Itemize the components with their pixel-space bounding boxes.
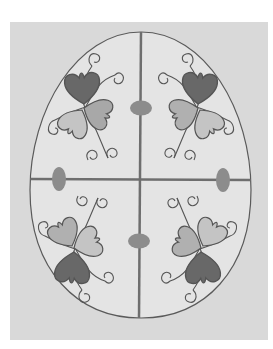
oval-bottom-center xyxy=(128,234,150,249)
oval-left xyxy=(52,167,66,191)
oval-top-center xyxy=(130,101,152,116)
oval-right xyxy=(216,168,230,192)
egg-illustration xyxy=(0,0,273,349)
